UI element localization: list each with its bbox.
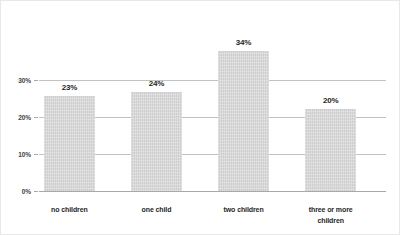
bar-three-or-more-children[interactable]: 20% <box>305 109 356 191</box>
axis-baseline: 0% <box>39 191 386 192</box>
plot-area: 30% 20% 10% 0% 23% 24% 34% 20% no childr… <box>39 11 386 191</box>
bar-chart-figure: 30% 20% 10% 0% 23% 24% 34% 20% no childr… <box>0 0 400 235</box>
x-axis-label-one-child: one child <box>142 205 172 216</box>
ytick-label-30: 30% <box>18 77 31 84</box>
bar-value-label: 20% <box>323 96 338 105</box>
gridline-30: 30% <box>39 80 386 81</box>
tick-mark-30 <box>34 80 38 81</box>
tick-mark-10 <box>34 154 38 155</box>
ytick-label-0: 0% <box>22 188 31 195</box>
x-axis-label-no-children: no children <box>51 205 88 216</box>
tick-mark-0 <box>34 191 38 192</box>
ytick-label-20: 20% <box>18 114 31 121</box>
bar-value-label: 23% <box>62 83 77 92</box>
bar-value-label: 24% <box>149 79 164 88</box>
x-axis-label-three-or-more-children: three or more children <box>300 205 362 227</box>
bar-one-child[interactable]: 24% <box>131 92 182 191</box>
bar-two-children[interactable]: 34% <box>218 51 269 191</box>
tick-mark-20 <box>34 117 38 118</box>
x-axis-label-two-children: two children <box>224 205 264 216</box>
bar-no-children[interactable]: 23% <box>44 96 95 191</box>
bar-value-label: 34% <box>236 38 251 47</box>
ytick-label-10: 10% <box>18 151 31 158</box>
